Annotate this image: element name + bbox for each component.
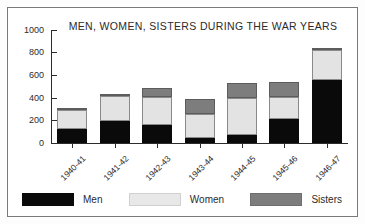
legend-label-women: Women — [190, 194, 224, 205]
legend-label-men: Men — [83, 194, 102, 205]
legend-item-women: Women — [129, 193, 224, 206]
bar-segment-women-1942-43 — [142, 97, 172, 125]
bar-segment-sisters-1943-44 — [185, 99, 215, 114]
bar-segment-women-1943-44 — [185, 114, 215, 138]
bar-segment-men-1944-45 — [227, 135, 257, 143]
bar-segment-women-1945-46 — [269, 97, 299, 120]
bar-1940-41[interactable] — [57, 30, 87, 143]
bar-segment-sisters-1945-46 — [269, 82, 299, 97]
legend-label-sisters: Sisters — [311, 194, 342, 205]
bar-1946-47[interactable] — [312, 30, 342, 143]
legend-item-men: Men — [22, 193, 102, 206]
bar-segment-men-1945-46 — [269, 119, 299, 143]
bar-segment-men-1943-44 — [185, 138, 215, 143]
bar-segment-sisters-1942-43 — [142, 88, 172, 97]
legend-item-sisters: Sisters — [250, 193, 342, 206]
bar-segment-men-1942-43 — [142, 125, 172, 143]
bar-segment-sisters-1944-45 — [227, 83, 257, 99]
bar-segment-men-1940-41 — [57, 129, 87, 143]
chart-figure: MEN, WOMEN, SISTERS DURING THE WAR YEARS… — [0, 0, 365, 224]
bar-1943-44[interactable] — [185, 30, 215, 143]
bar-segment-sisters-1946-47 — [312, 48, 342, 51]
bar-1941-42[interactable] — [100, 30, 130, 143]
bar-segment-women-1940-41 — [57, 110, 87, 129]
bar-segment-sisters-1941-42 — [100, 94, 130, 96]
bar-1945-46[interactable] — [269, 30, 299, 143]
bar-1942-43[interactable] — [142, 30, 172, 143]
legend-swatch-men-icon — [22, 193, 74, 206]
bar-segment-women-1944-45 — [227, 98, 257, 134]
legend-swatch-sisters-icon — [250, 193, 302, 206]
bar-segment-women-1941-42 — [100, 96, 130, 121]
bar-segment-women-1946-47 — [312, 50, 342, 80]
bar-segment-men-1941-42 — [100, 121, 130, 143]
bar-segment-men-1946-47 — [312, 80, 342, 143]
bar-segment-sisters-1940-41 — [57, 108, 87, 110]
legend-swatch-women-icon — [129, 193, 181, 206]
bar-1944-45[interactable] — [227, 30, 257, 143]
